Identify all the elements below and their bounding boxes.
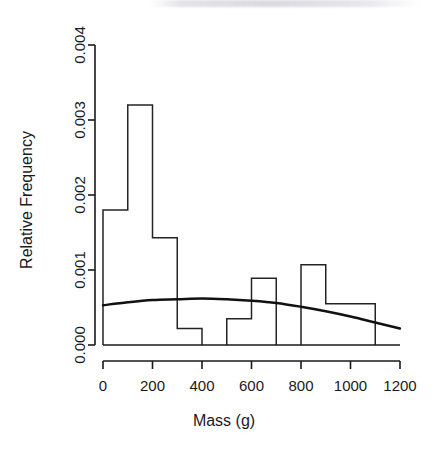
x-tick-label: 1000 [334, 377, 367, 394]
y-tick-label: 0.003 [71, 101, 88, 139]
x-tick-label: 200 [140, 377, 165, 394]
histogram-bars [103, 105, 375, 345]
y-axis [88, 45, 95, 345]
x-axis [103, 361, 400, 369]
y-axis-tick-labels: 0.0000.0010.0020.0030.004 [71, 26, 88, 364]
x-tick-label: 800 [288, 377, 313, 394]
y-tick-label: 0.002 [71, 176, 88, 214]
x-tick-label: 0 [99, 377, 107, 394]
x-axis-tick-labels: 020040060080010001200 [99, 377, 417, 394]
chart-canvas: 0.0000.0010.0020.0030.004 02004006008001… [0, 0, 448, 456]
x-tick-label: 1200 [383, 377, 416, 394]
y-tick-label: 0.000 [71, 326, 88, 364]
x-tick-label: 600 [239, 377, 264, 394]
x-axis-title: Mass (g) [193, 412, 255, 429]
y-tick-label: 0.001 [71, 251, 88, 289]
histogram-figure: 0.0000.0010.0020.0030.004 02004006008001… [0, 0, 448, 456]
y-axis-title: Relative Frequency [18, 131, 35, 269]
x-tick-label: 400 [189, 377, 214, 394]
y-tick-label: 0.004 [71, 26, 88, 64]
